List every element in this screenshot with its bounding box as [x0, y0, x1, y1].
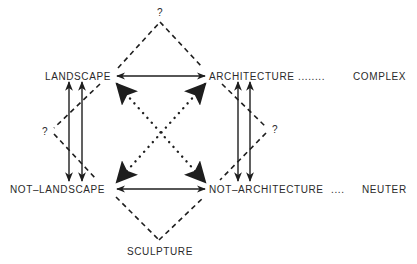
vertical-arrows-right [238, 82, 250, 181]
dashed-diamond-top [118, 22, 203, 68]
term-landscape: LANDSCAPE [45, 71, 111, 82]
vertical-arrows-left [69, 82, 82, 181]
expanded-field-diagram: LANDSCAPE ARCHITECTURE ........ COMPLEX … [0, 0, 417, 264]
term-architecture: ARCHITECTURE [209, 71, 295, 82]
question-mark-right: ? [272, 124, 278, 135]
question-mark-top: ? [157, 7, 163, 18]
question-mark-left: ? [42, 126, 48, 137]
term-sculpture: SCULPTURE [127, 246, 193, 257]
dashed-diamond-bottom [116, 197, 204, 240]
dashed-left-wing [54, 84, 100, 180]
diagram-canvas: LANDSCAPE ARCHITECTURE ........ COMPLEX … [0, 0, 417, 264]
term-not-landscape: NOT–LANDSCAPE [10, 184, 105, 195]
dashed-right-wing [220, 84, 266, 180]
term-neuter: NEUTER [362, 184, 407, 195]
term-complex: COMPLEX [353, 71, 406, 82]
complex-leader: ........ [298, 71, 325, 82]
term-not-architecture: NOT–ARCHITECTURE [209, 184, 324, 195]
neuter-leader: .... [331, 184, 345, 195]
